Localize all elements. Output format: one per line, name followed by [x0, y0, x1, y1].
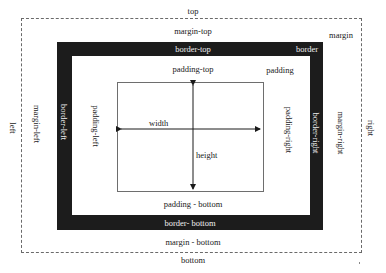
label-margin: margin [329, 31, 353, 40]
label-right: right [367, 120, 376, 136]
label-border-top: border-top [175, 45, 211, 54]
label-left: left [9, 122, 18, 133]
label-bottom: bottom [181, 256, 205, 265]
label-width: width [149, 119, 168, 128]
label-border-left: border-left [60, 104, 69, 140]
label-border-right: border-right [312, 113, 321, 154]
dimension-arrows [0, 0, 386, 273]
label-margin-top: margin-top [174, 27, 212, 36]
label-margin-bottom: margin - bottom [165, 238, 220, 247]
label-padding-right: padding-right [285, 107, 294, 153]
label-border: border [296, 45, 318, 54]
label-margin-left: margin-left [33, 105, 42, 143]
label-padding-top: padding-top [172, 65, 213, 74]
label-padding-left: padding-left [92, 105, 101, 147]
stray-mark [359, 262, 360, 264]
label-padding-bottom: padding - bottom [164, 200, 223, 209]
label-top: top [188, 7, 199, 16]
label-padding: padding [266, 66, 293, 75]
label-height: height [196, 151, 217, 160]
label-border-bottom: border- bottom [164, 219, 215, 228]
label-margin-right: margin-right [337, 112, 346, 155]
